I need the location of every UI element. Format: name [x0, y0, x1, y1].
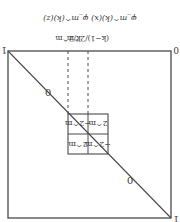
region-label-upper: 0 — [45, 87, 51, 98]
cell-label: −2^m — [65, 119, 91, 128]
diagram-canvas: −2^m 2^m 2^m −2^m 0 0 0 1 1 (k−1)/2^m k/… — [0, 0, 180, 222]
corner-label-origin: 0 — [173, 45, 179, 55]
corner-label-y1: 1 — [173, 214, 179, 222]
corner-label-x1: 1 — [1, 45, 7, 55]
cell-label: 2^m — [68, 140, 88, 149]
region-label-lower: 0 — [127, 175, 133, 186]
tick-label-k: k/2^m — [55, 34, 80, 43]
diagram-title: φ_m^(k)(x) φ_m^(k)(z) — [43, 14, 137, 23]
